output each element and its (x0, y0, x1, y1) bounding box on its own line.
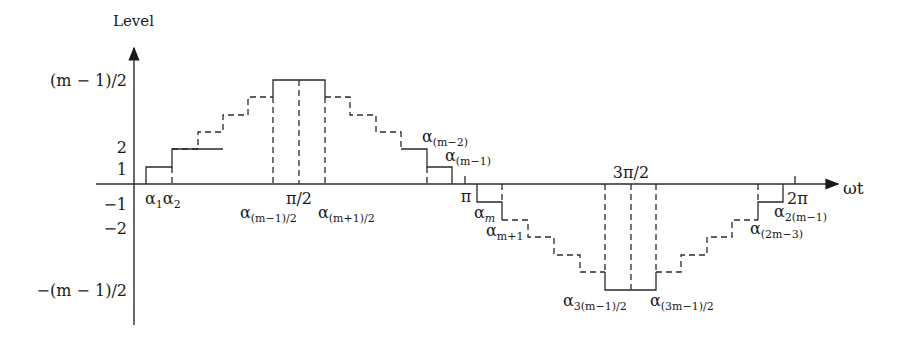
y-tick-neg1: −1 (103, 195, 127, 214)
positive-half-cycle (146, 80, 465, 184)
alpha-1-label: α1α2 (145, 189, 181, 211)
y-tick-top: (m − 1)/2 (50, 71, 127, 90)
y-tick-1: 1 (117, 160, 127, 179)
alpha-3mid-left-label: α3(m−1)/2 (563, 291, 627, 313)
x-mark-half-pi: π/2 (286, 189, 312, 208)
x-axis-label: ωt (843, 178, 864, 198)
y-tick-2: 2 (117, 138, 127, 157)
x-mark-two-pi: 2π (787, 189, 808, 208)
x-mark-three-half-pi: 3π/2 (613, 163, 649, 182)
y-tick-neg2: −2 (103, 219, 127, 238)
negative-half-cycle (477, 176, 795, 290)
alpha-m-minus-1-label: α(m−1) (445, 146, 491, 168)
staircase-waveform-diagram: Level (m − 1)/2 2 1 −1 −2 −(m − 1)/2 ωt … (0, 0, 907, 342)
alpha-mid-right-label: α(m+1)/2 (318, 203, 375, 225)
y-tick-bottom: −(m − 1)/2 (37, 281, 127, 300)
alpha-3mid-right-label: α(3m−1)/2 (650, 291, 714, 313)
x-mark-pi: π (461, 187, 472, 206)
y-axis-label: Level (113, 12, 154, 30)
alpha-m-plus-1-label: αm+1 (486, 221, 523, 243)
